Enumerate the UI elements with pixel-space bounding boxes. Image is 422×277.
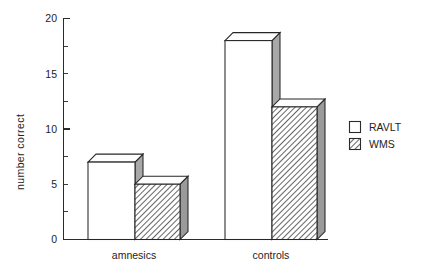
bar-amnesics-wms xyxy=(135,176,188,239)
category-label-controls: controls xyxy=(253,249,290,261)
open-square-icon xyxy=(350,122,361,133)
chart-canvas: 20 10 15 5 0 number correct xyxy=(0,0,422,277)
y-tick-label-10: 10 xyxy=(45,123,57,135)
y-axis-title: number correct xyxy=(14,114,26,190)
y-tick-label-20: 20 xyxy=(45,12,57,24)
bar-top-face xyxy=(272,99,325,107)
bar-side-face xyxy=(317,99,325,240)
bar-chart: 20 10 15 5 0 number correct xyxy=(0,0,422,277)
bar-front-face xyxy=(88,162,135,239)
bar-front-face xyxy=(225,41,272,240)
bar-top-face xyxy=(225,33,280,41)
y-tick-label-15: 15 xyxy=(45,68,57,80)
y-tick-label-5: 5 xyxy=(51,178,57,190)
legend-label-wms: WMS xyxy=(369,138,395,150)
bar-front-face xyxy=(135,184,180,239)
y-tick-label-0: 0 xyxy=(51,233,57,245)
category-label-amnesics: amnesics xyxy=(112,249,156,261)
bar-top-face xyxy=(135,176,188,184)
y-axis-title-text: number correct xyxy=(14,114,26,190)
bar-controls-wms xyxy=(272,99,325,240)
bar-top-face xyxy=(88,154,143,162)
bar-front-face xyxy=(272,107,317,240)
bar-side-face xyxy=(180,176,188,239)
legend-entry-ravlt: RAVLT xyxy=(350,121,402,133)
legend-label-ravlt: RAVLT xyxy=(369,121,402,133)
hatched-square-icon xyxy=(350,139,361,150)
legend-entry-wms: WMS xyxy=(350,138,395,150)
